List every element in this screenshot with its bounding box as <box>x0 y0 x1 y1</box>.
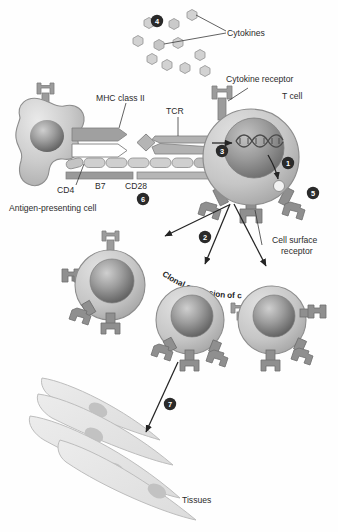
cytokine-dot <box>173 38 183 49</box>
step-marker-4: 4 <box>151 15 163 27</box>
apc-nucleus <box>30 120 64 152</box>
arrow-expansion-left <box>165 205 229 236</box>
step-marker-2: 2 <box>199 231 211 243</box>
daughter-cell-mid <box>151 286 228 371</box>
daughter-cell-nucleus <box>253 295 295 337</box>
cytokine-dot <box>187 10 197 21</box>
daughter-cell-right <box>231 286 326 371</box>
tissue-cell <box>58 440 196 520</box>
mhc-leader <box>119 103 126 128</box>
label-tissues: Tissues <box>182 495 211 505</box>
svg-text:5: 5 <box>311 189 315 198</box>
daughter-cell-nucleus <box>171 295 213 337</box>
step-marker-1: 1 <box>282 157 294 169</box>
svg-text:7: 7 <box>168 400 172 409</box>
cytokine-dot <box>180 63 190 74</box>
cytokine-dot <box>195 50 205 61</box>
label-cell-surface-receptor-2: receptor <box>281 246 313 256</box>
step-marker-7: 7 <box>164 398 176 410</box>
mhc-class-ii-lower <box>72 144 127 157</box>
cd4-bar-left <box>66 172 133 179</box>
tcr-upper-chain <box>152 136 212 143</box>
label-antigen-presenting-cell: Antigen-presenting cell <box>9 203 97 213</box>
label-cd28: CD28 <box>125 181 147 191</box>
cytokines-leader-a <box>196 15 226 31</box>
cd28-molecule <box>128 158 212 168</box>
step-marker-6: 6 <box>137 193 149 205</box>
cytokine-dot <box>147 54 157 65</box>
figure-canvas: Clonal expansion of cells <box>0 0 338 532</box>
cytokine-dot <box>162 60 172 71</box>
cd4-bar-right <box>137 172 212 179</box>
cell-surface-receptor <box>69 300 96 325</box>
cell-surface-receptor <box>151 337 177 361</box>
mhc-class-ii-upper <box>72 128 127 141</box>
label-cytokine-receptor: Cytokine receptor <box>226 74 293 84</box>
svg-text:3: 3 <box>220 147 224 156</box>
daughter-cell-nucleus <box>90 259 134 303</box>
label-tcr: TCR <box>166 106 184 116</box>
arrow-to-tissue <box>146 362 178 432</box>
svg-text:2: 2 <box>203 233 207 242</box>
label-t-cell: T cell <box>282 91 302 101</box>
label-b7: B7 <box>95 181 106 191</box>
immunology-diagram: Clonal expansion of cells <box>0 0 338 532</box>
cytokine-dot <box>133 36 143 47</box>
label-cytokines: Cytokines <box>227 28 265 38</box>
svg-text:6: 6 <box>141 195 145 204</box>
label-mhc-class-ii: MHC class II <box>96 93 145 103</box>
svg-text:1: 1 <box>286 159 290 168</box>
step-marker-5: 5 <box>307 187 319 199</box>
mhc-tcr-complex <box>65 128 212 179</box>
cytokines-leader-b <box>164 33 226 44</box>
b7-molecule <box>65 157 127 170</box>
label-cd4: CD4 <box>57 185 74 195</box>
label-cell-surface-receptor-1: Cell surface <box>272 235 318 245</box>
cytokine-dot <box>154 40 164 51</box>
secretory-vesicle <box>274 181 285 192</box>
step-marker-3: 3 <box>216 145 228 157</box>
daughter-cell-left <box>62 231 145 334</box>
t-cell <box>198 86 305 223</box>
cytokine-dot <box>169 19 179 30</box>
cytokine-dot <box>200 66 210 77</box>
